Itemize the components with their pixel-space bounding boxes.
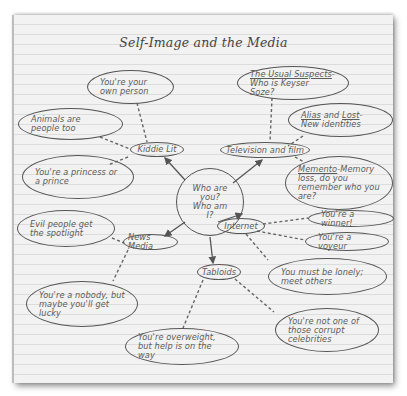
diagram-title: Self-Image and the Media <box>0 35 407 50</box>
category-kiddie-lit: Kiddie Lit <box>130 142 184 157</box>
message-voyeur: You're a voyeur <box>305 232 389 251</box>
center-line-2: Who am I? <box>193 201 228 220</box>
center-line-1: Who are you? <box>192 183 227 202</box>
arrow-to-television <box>233 160 262 183</box>
arrow-to-tabloids <box>210 237 213 263</box>
message-evil-people: Evil people get the spotlight <box>17 210 115 247</box>
message-corrupt: You're not one of those corrupt celebrit… <box>275 308 379 352</box>
message-nobody: You're a nobody, but maybe you'll get lu… <box>26 281 138 327</box>
category-tabloids: Tabloids <box>197 264 241 280</box>
category-internet: Internet <box>217 218 265 234</box>
category-television-film: Television and film <box>220 142 310 158</box>
message-usual-suspects: The Usual Suspects-Who is Keyser Soze? <box>237 66 349 100</box>
message-overweight: You're overweight, but help is on the wa… <box>125 328 239 365</box>
message-memento: Memento-Memory loss, do you remember who… <box>285 156 393 210</box>
message-own-person: You're your own person <box>87 70 174 104</box>
message-lonely: You must be lonely; meet others <box>268 258 387 295</box>
category-news-media: News Media <box>123 234 178 250</box>
arrow-to-kiddie-lit <box>165 158 185 180</box>
message-alias-lost: Alias and Lost-New identities <box>288 103 393 137</box>
message-princess: You're a princess or a prince <box>22 155 134 199</box>
message-animals: Animals are people too <box>18 108 123 140</box>
message-winner: You're a winner! <box>308 210 394 227</box>
